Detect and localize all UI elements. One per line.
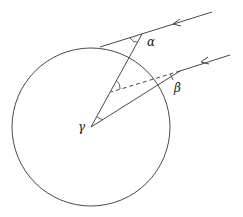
alpha-label: α [147,36,155,48]
inner-arc [116,80,120,89]
refracted-ray [91,71,180,127]
alpha-arc [130,38,137,42]
gamma-arc [97,117,103,120]
lower-ray-arrow-icon [201,57,209,64]
dashed-extension [111,71,180,92]
beta-label: β [174,82,181,94]
refraction-diagram: α β γ [0,0,243,217]
diagram-canvas [0,0,243,217]
gamma-label: γ [78,121,85,133]
upper-incident-ray [100,12,212,47]
